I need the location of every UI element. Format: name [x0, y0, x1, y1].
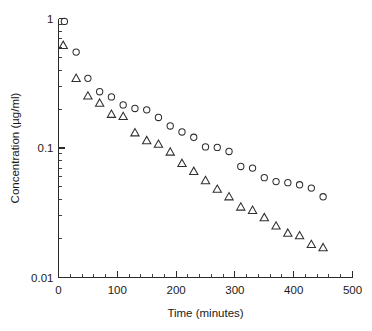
data-point	[97, 89, 103, 95]
y-tick-label: 1	[47, 13, 53, 25]
x-axis-tick-labels: 0100200300400500	[55, 284, 362, 296]
data-point	[273, 178, 279, 184]
data-point	[143, 136, 151, 143]
data-point	[167, 123, 173, 129]
data-point	[225, 193, 233, 200]
x-axis-ticks	[59, 271, 353, 278]
data-point	[96, 99, 104, 106]
data-point	[108, 94, 114, 100]
data-point	[320, 194, 326, 200]
data-point	[272, 222, 280, 229]
data-point	[61, 18, 67, 24]
data-point	[319, 243, 327, 250]
data-point	[249, 165, 255, 171]
data-point	[73, 49, 79, 55]
x-tick-label: 100	[108, 284, 127, 296]
plot-axes	[59, 19, 353, 278]
y-tick-label: 0.1	[38, 142, 54, 154]
data-point	[119, 112, 127, 119]
data-point	[202, 144, 208, 150]
x-axis-title: Time (minutes)	[167, 307, 243, 319]
data-point	[237, 203, 245, 210]
data-point	[178, 159, 186, 166]
data-point	[84, 92, 92, 99]
data-point	[166, 148, 174, 155]
data-point	[107, 110, 115, 117]
data-point	[214, 144, 220, 150]
series-triangles	[59, 41, 327, 251]
data-point	[154, 140, 162, 147]
data-point	[213, 185, 221, 192]
y-axis-ticks	[59, 19, 66, 278]
x-tick-label: 200	[167, 284, 186, 296]
x-tick-label: 0	[55, 284, 61, 296]
data-point	[307, 240, 315, 247]
data-point	[261, 175, 267, 181]
data-point	[248, 206, 256, 213]
data-point	[296, 182, 302, 188]
data-point	[179, 129, 185, 135]
y-axis-title: Concentration (µg/ml)	[9, 92, 21, 203]
data-point	[191, 134, 197, 140]
data-point	[85, 75, 91, 81]
data-point	[120, 102, 126, 108]
data-point	[260, 213, 268, 220]
y-tick-label: 0.01	[31, 272, 53, 284]
data-point	[295, 232, 303, 239]
x-tick-label: 500	[343, 284, 362, 296]
data-point	[238, 163, 244, 169]
data-point	[284, 229, 292, 236]
y-axis-tick-labels: 10.10.01	[31, 13, 53, 284]
series-circles	[61, 18, 326, 200]
concentration-vs-time-plot: 10.10.01 0100200300400500 Time (minutes)…	[0, 0, 372, 331]
data-point	[285, 180, 291, 186]
data-point	[155, 114, 161, 120]
data-point	[144, 107, 150, 113]
x-tick-label: 300	[225, 284, 244, 296]
x-tick-label: 400	[284, 284, 303, 296]
data-point	[201, 176, 209, 183]
data-point	[132, 105, 138, 111]
data-point	[226, 148, 232, 154]
chart-figure: 10.10.01 0100200300400500 Time (minutes)…	[0, 0, 372, 331]
data-point	[131, 129, 139, 136]
data-point	[190, 167, 198, 174]
data-point	[72, 74, 80, 81]
data-point	[308, 185, 314, 191]
